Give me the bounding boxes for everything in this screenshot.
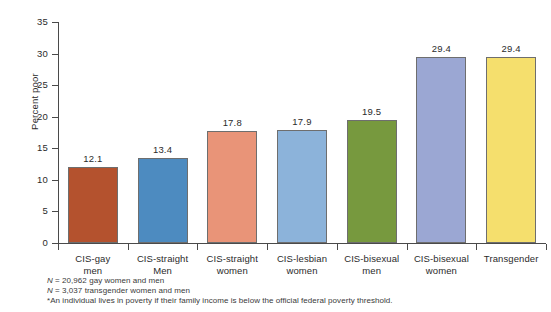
- bar: [207, 131, 257, 243]
- footnote-line-2-text: = 3,037 transgender women and men: [53, 286, 190, 295]
- y-tick-label: 10: [22, 175, 48, 185]
- y-tick-label: 25: [22, 80, 48, 90]
- bar: [138, 158, 188, 243]
- x-category-label: CIS-straight Men: [125, 253, 201, 276]
- chart-footnotes: N = 20,962 gay women and men N = 3,037 t…: [47, 276, 393, 305]
- x-tick-mark: [197, 244, 198, 250]
- y-tick-label: 5: [22, 206, 48, 216]
- bar-value-label: 29.4: [486, 44, 536, 54]
- y-tick-label: 35: [22, 17, 48, 27]
- footnote-line-1-text: = 20,962 gay women and men: [53, 276, 164, 285]
- bar-value-label: 12.1: [68, 154, 118, 164]
- bar-value-label: 13.4: [138, 145, 188, 155]
- footnote-poverty-definition: *An individual lives in poverty if their…: [47, 296, 393, 306]
- y-tick-label: 20: [22, 112, 48, 122]
- x-category-label: CIS-lesbian women: [264, 253, 340, 276]
- bar: [347, 120, 397, 243]
- bar-value-label: 29.4: [416, 44, 466, 54]
- y-tick-label: 30: [22, 49, 48, 59]
- x-axis-line: [58, 243, 546, 244]
- x-tick-mark: [476, 244, 477, 250]
- x-tick-mark: [337, 244, 338, 250]
- x-category-label: CIS-straight women: [194, 253, 270, 276]
- y-tick-label: 15: [22, 143, 48, 153]
- x-tick-mark: [267, 244, 268, 250]
- x-category-label: CIS-bisexual men: [334, 253, 410, 276]
- bar-chart-figure: Percent poor 05101520253035 12.113.417.8…: [0, 0, 551, 312]
- x-category-label: CIS-bisexual women: [403, 253, 479, 276]
- bar-value-label: 19.5: [347, 107, 397, 117]
- bar-value-label: 17.9: [277, 117, 327, 127]
- x-category-label: Transgender: [473, 253, 549, 265]
- x-tick-mark: [407, 244, 408, 250]
- bar: [277, 130, 327, 243]
- bar-value-label: 17.8: [207, 118, 257, 128]
- x-category-label: CIS-gay men: [55, 253, 131, 276]
- bar: [68, 167, 118, 243]
- x-tick-mark: [546, 244, 547, 250]
- y-tick-label: 0: [22, 238, 48, 248]
- x-tick-mark: [128, 244, 129, 250]
- footnote-sample-size-transgender: N = 3,037 transgender women and men: [47, 286, 393, 296]
- plot-area: [58, 22, 545, 243]
- bar: [486, 57, 536, 243]
- bar: [416, 57, 466, 243]
- x-tick-mark: [58, 244, 59, 250]
- footnote-sample-size-gay: N = 20,962 gay women and men: [47, 276, 393, 286]
